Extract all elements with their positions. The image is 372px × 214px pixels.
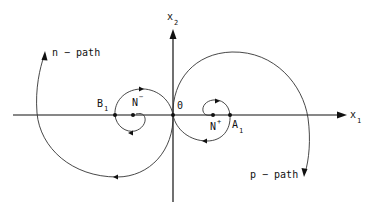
direction-arrow-icon (113, 175, 118, 180)
x1-axis-label: x 1 (350, 109, 361, 125)
direction-arrow-icon (139, 87, 144, 92)
x2-axis-arrow-icon (170, 29, 177, 39)
n-path-label: n − path (52, 47, 100, 58)
origin-label: 0 (177, 100, 183, 111)
svg-text:A: A (232, 119, 238, 130)
svg-text:1: 1 (104, 105, 108, 113)
svg-text:2: 2 (174, 19, 178, 27)
n-path-arrow-icon (42, 51, 48, 61)
n-path-curve (37, 56, 173, 177)
svg-text:1: 1 (239, 127, 243, 135)
x1-axis-arrow-icon (337, 112, 347, 119)
a1-label: A 1 (232, 119, 243, 135)
svg-text:N: N (132, 97, 138, 108)
origin-point (171, 113, 175, 117)
p-path-curve (173, 52, 309, 173)
direction-arrow-icon (215, 99, 220, 104)
svg-text:x: x (167, 11, 173, 22)
svg-text:1: 1 (357, 117, 361, 125)
x2-axis-label: x 2 (167, 11, 178, 27)
n-plus-label: N + (210, 118, 221, 132)
p-path-label: p − path (250, 169, 298, 180)
x1-axis (13, 112, 347, 119)
b1-point (113, 113, 117, 117)
n-minus-spiral (115, 89, 173, 131)
phase-plane-diagram: x 1 x 2 0 (0, 0, 372, 214)
svg-text:x: x (350, 109, 356, 120)
n-plus-point (211, 113, 215, 117)
direction-arrow-icon (202, 139, 207, 144)
b1-label: B 1 (97, 98, 108, 113)
svg-text:−: − (139, 93, 143, 101)
n-minus-label: N − (132, 93, 143, 108)
svg-text:+: + (217, 118, 221, 126)
n-minus-point (131, 113, 135, 117)
p-path-arrow-icon (302, 168, 308, 177)
a1-point (228, 113, 232, 117)
svg-text:B: B (97, 98, 103, 109)
svg-text:N: N (210, 121, 216, 132)
